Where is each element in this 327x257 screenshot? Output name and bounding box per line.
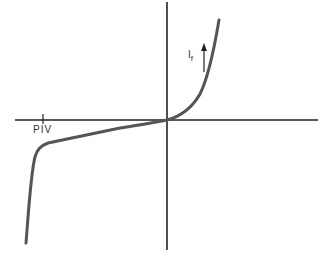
forward-current-label: If	[188, 49, 193, 63]
current-subscript: f	[191, 54, 193, 63]
piv-label: PIV	[33, 124, 52, 135]
current-direction-arrow-icon	[201, 43, 207, 72]
